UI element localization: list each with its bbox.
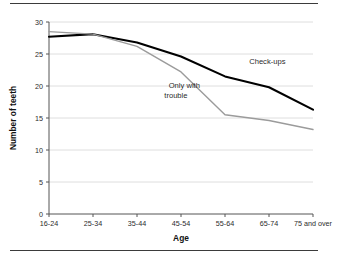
chart-plot-area: 051015202530 16-2425-3435-4445-5455-6465…	[0, 8, 340, 248]
y-tick-label: 15	[35, 114, 43, 123]
y-tick-label: 30	[35, 18, 43, 27]
x-tick-labels: 16-2425-3435-4445-5455-6465-7475 and ove…	[40, 219, 333, 228]
x-tick-label: 45-54	[172, 219, 190, 228]
line-chart: 051015202530 16-2425-3435-4445-5455-6465…	[0, 8, 340, 248]
y-axis-title: Number of teeth	[8, 86, 18, 150]
bottom-divider-rule	[10, 250, 318, 251]
x-tick-label: 75 and over	[294, 219, 333, 228]
top-divider-rule	[10, 3, 318, 4]
y-tick-label: 0	[39, 210, 43, 219]
x-tick-label: 55-64	[216, 219, 234, 228]
series-annotation-label: Only with	[169, 81, 200, 90]
x-tick-label: 65-74	[260, 219, 278, 228]
x-tick-label: 25-34	[84, 219, 102, 228]
x-tick-label: 35-44	[128, 219, 146, 228]
y-tick-label: 20	[35, 82, 43, 91]
x-axis-title: Age	[173, 233, 189, 243]
y-tick-label: 10	[35, 146, 43, 155]
y-tick-label: 5	[39, 178, 43, 187]
y-tick-label: 25	[35, 50, 43, 59]
grid-lines	[49, 22, 313, 182]
x-tick-label: 16-24	[40, 219, 58, 228]
figure-container: 051015202530 16-2425-3435-4445-5455-6465…	[0, 0, 340, 258]
series-annotation-label: trouble	[164, 91, 187, 100]
y-tick-labels: 051015202530	[35, 18, 43, 219]
series-annotation-label: Check-ups	[249, 57, 285, 66]
series-annotations: Check-upsOnly withtrouble	[164, 57, 285, 99]
